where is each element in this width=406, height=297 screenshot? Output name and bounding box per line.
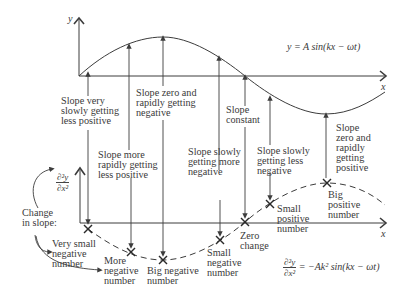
change-label-more-negative: More negative number (104, 256, 139, 286)
top-y-axis-label: y (68, 14, 73, 24)
change-label-small-negative: Small negative number (207, 248, 242, 278)
bottom-y-axis-label: ∂²y∂x² (56, 172, 69, 193)
change-label-very-small-negative: Very small negative number (52, 239, 96, 269)
x-mark-icon (266, 200, 274, 208)
slope-label-more-rapidly: Slope more rapidly getting less positive (98, 150, 158, 180)
slope-label-very-slowly: Slope very slowly getting less positive (61, 96, 119, 126)
change-label-small-positive: Small positive number (277, 204, 309, 234)
x-mark-icon (241, 218, 249, 226)
change-label-big-positive: Big positive number (328, 190, 360, 220)
slope-label-slowly-more-negative: Slope slowly getting more negative (188, 147, 241, 177)
top-equation: y = A sin(kx − ωt) (287, 41, 360, 52)
change-in-slope-label: Change in slope: (22, 208, 57, 228)
change-label-big-negative: Big negative number (147, 266, 199, 286)
x-mark-icon (216, 236, 224, 244)
top-x-axis-label: x (381, 82, 386, 92)
slope-label-zero-rapidly-negative: Slope zero and rapidly getting negative (136, 88, 197, 118)
bottom-x-axis-label: x (381, 229, 386, 239)
change-label-zero-change: Zero change (240, 231, 269, 251)
bottom-equation: ∂²y∂x² = −Ak² sin(kx − ωt) (283, 257, 379, 278)
slope-label-slowly-less-negative: Slope slowly getting less negative (257, 146, 310, 176)
slope-label-zero-rapidly-positive: Slope zero and rapidly getting positive (336, 123, 371, 173)
slope-label-constant: Slope constant (226, 105, 260, 125)
x-mark-icon (84, 225, 92, 233)
x-mark-icon (127, 248, 135, 256)
